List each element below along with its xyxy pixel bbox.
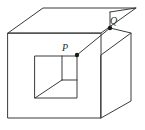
p-to-q-edge: [77, 28, 110, 55]
vertex-dot-q: [108, 26, 112, 30]
inner-square-hole-outline: [35, 56, 77, 98]
hole-interior-diagonal-edge: [35, 80, 62, 98]
vertex-label-q: Q: [110, 16, 117, 26]
right-face-outline: [101, 33, 131, 118]
vertex-label-p: P: [62, 43, 68, 53]
vertex-dot-p: [75, 53, 79, 57]
front-face-outline: [8, 33, 101, 118]
block-with-square-hole-diagram: [0, 0, 145, 130]
figure-canvas: P Q: [0, 0, 145, 130]
